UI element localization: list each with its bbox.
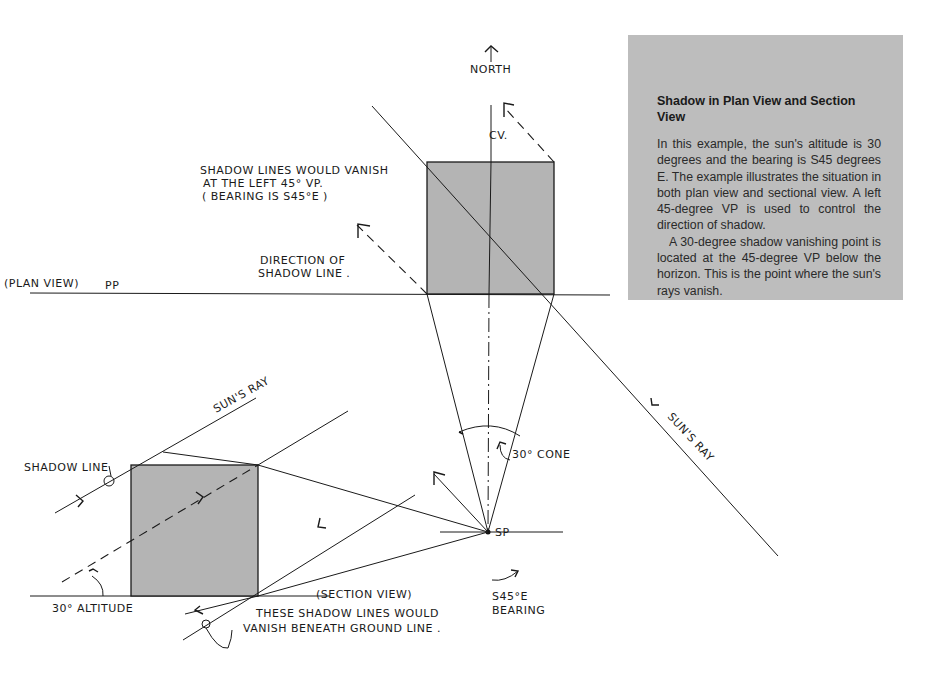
direction-label-1: DIRECTION OF [260,254,345,267]
direction-label-2: SHADOW LINE . [258,267,350,280]
info-paragraph-2: A 30-degree shadow vanishing point is lo… [657,234,881,299]
ray-up-left [434,474,488,532]
suns-ray-right-label: SUN'S RAY [665,410,717,464]
line-to-sp-lower [258,532,488,596]
altitude-label: 30° ALTITUDE [52,602,133,615]
altitude-arrow-icon [89,569,98,572]
center-line-of-vision [488,294,489,532]
altitude-arc [92,576,103,596]
shadow-line-label: SHADOW LINE [24,461,108,474]
thirty-cone-label: 30° CONE [512,448,571,461]
shadow-line-leader [109,466,111,476]
suns-ray-left-label: SUN'S RAY [211,374,271,415]
line-top-left [163,452,258,465]
bearing-label-2: BEARING [492,604,545,617]
info-title: Shadow in Plan View and Section View [657,93,881,125]
ground-leader [206,628,232,648]
suns-ray-arrow-icon [651,398,659,405]
shadow-note-line-2: AT THE LEFT 45° VP. [203,177,323,190]
labels: NORTH CV. SHADOW LINES WOULD VANISH AT T… [4,63,717,635]
shadow-note-line-3: ( BEARING IS S45°E ) [202,190,328,203]
cv-label: CV. [489,129,508,142]
arrow-head-icon [434,472,445,485]
shadow-line-below-ground [185,596,258,614]
shadow-direction-dashed-left [357,225,427,294]
info-paragraph-1: In this example, the sun's altitude is 3… [657,136,881,234]
line-to-sp-upper [258,465,488,532]
projector-left [427,294,488,532]
cone-arc [459,426,520,436]
projector-right [488,294,554,532]
sp-label: SP [495,526,510,539]
shadow-note-line-1: SHADOW LINES WOULD VANISH [200,164,389,177]
plan-view-label: (PLAN VIEW) [4,277,79,290]
bearing-arc [492,571,518,580]
bearing-label-1: S45°E [492,590,528,603]
arrow-head-icon [318,518,326,528]
section-view-label: (SECTION VIEW) [316,588,412,601]
shadow-direction-dashed-top [504,107,554,162]
north-label: NORTH [470,63,511,76]
section-view-box [131,465,258,596]
shadow-line-extension [258,411,348,465]
info-box: Shadow in Plan View and Section View In … [628,35,903,300]
ground-note-line-2: VANISH BENEATH GROUND LINE . [243,622,441,635]
arrow-head-icon [504,103,514,117]
arrow-head-icon [76,495,83,507]
cone-arrow-icon [497,442,506,449]
shadow-line-marker [104,476,114,486]
ground-note-line-1: THESE SHADOW LINES WOULD [255,607,439,620]
station-point [434,398,659,580]
pp-label: PP [105,279,119,292]
